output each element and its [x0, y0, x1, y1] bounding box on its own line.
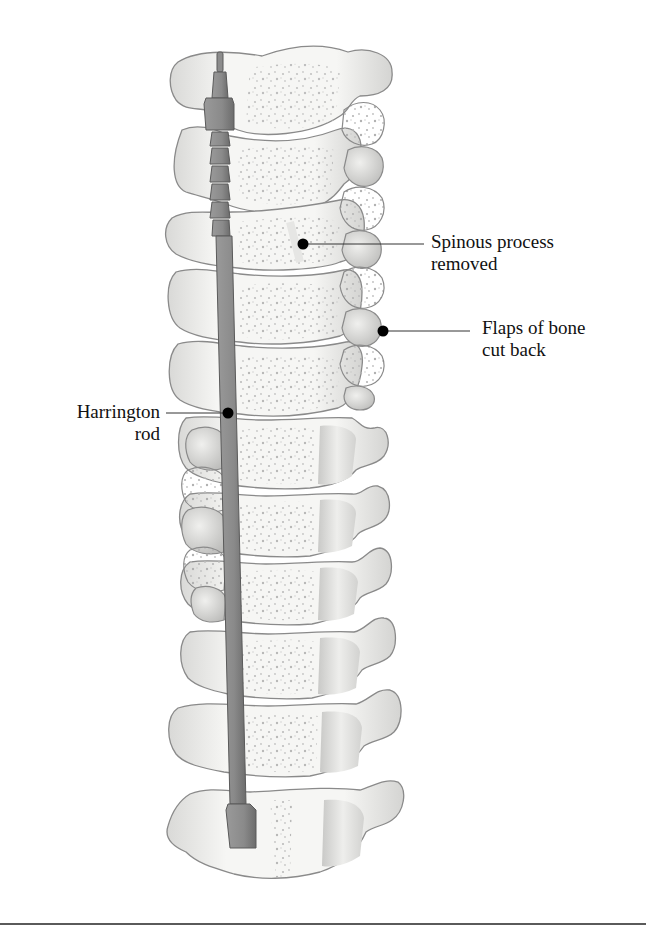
label-spinous-process: Spinous process removed	[431, 231, 554, 275]
bottom-divider-rule	[0, 923, 646, 925]
label-rod-line1: Harrington	[38, 401, 160, 423]
label-harrington-rod: Harrington rod	[38, 401, 160, 445]
label-flaps-line2: cut back	[482, 339, 585, 361]
marker-dot-rod	[223, 408, 234, 419]
marker-dot-spinous	[298, 239, 309, 250]
label-spinous-line2: removed	[431, 253, 554, 275]
label-flaps-line1: Flaps of bone	[482, 317, 585, 339]
marker-dot-flaps	[378, 326, 389, 337]
label-flaps-of-bone: Flaps of bone cut back	[482, 317, 585, 361]
label-rod-line2: rod	[38, 423, 160, 445]
label-spinous-line1: Spinous process	[431, 231, 554, 253]
spine-illustration	[0, 0, 646, 936]
